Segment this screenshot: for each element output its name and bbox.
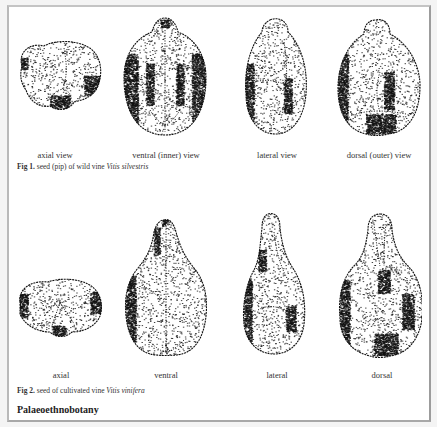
caption-text: seed (pip) of wild vine [37,162,105,171]
seed-drawing [336,14,422,138]
view-label-fig1-ventral: ventral (inner) view [132,150,200,160]
view-label-fig2-lateral: lateral [266,370,287,380]
seed-drawing [124,216,208,358]
seed-drawing [120,14,210,138]
seed-illustration-fig2-lateral [240,210,306,356]
figure-number: Fig 1. [17,162,35,171]
view-label-fig1-lateral: lateral view [257,150,297,160]
seed-illustration-fig1-lateral [240,14,312,138]
seed-outline [246,19,307,134]
stipple-layer [124,216,208,358]
figure-number: Fig 2. [17,386,35,395]
stipple-layer [240,210,306,356]
surface-ridge [250,80,288,86]
seed-illustration-fig2-axial [14,274,104,338]
seed-drawing [14,36,104,114]
species-name: Vitis vinifera [106,386,144,395]
figure-caption-2: Fig 2. seed of cultivated vine Vitis vin… [17,386,145,395]
stipple-layer [120,14,210,138]
seed-drawing [14,274,104,338]
seed-illustration-fig1-ventral [120,14,210,138]
view-label-fig2-axial: axial [53,370,70,380]
surface-ridge [64,48,66,84]
seed-outline [20,279,102,336]
surface-ridge [384,224,386,266]
view-label-fig1-dorsal: dorsal (outer) view [347,150,412,160]
surface-ridge [356,111,406,114]
view-label-fig2-dorsal: dorsal [372,370,393,380]
surface-ridge [166,340,184,352]
view-label-fig1-axial: axial view [37,150,72,160]
figure-caption-1: Fig 1. seed (pip) of wild vine Vitis sil… [17,162,148,171]
stipple-layer [338,210,422,358]
surface-ridge [377,72,380,112]
stipple-layer [14,274,104,338]
surface-ridge [144,286,164,300]
caption-text: seed of cultivated vine [37,386,105,395]
surface-ridge [54,90,70,95]
stipple-layer [336,15,422,138]
seed-illustration-fig1-dorsal [336,14,422,138]
section-title: Palaeoethnobotany [17,404,99,415]
seed-illustration-fig2-ventral [124,216,208,358]
seed-drawing [240,210,306,356]
seed-drawing [338,210,422,358]
stipple-layer [240,14,312,138]
seed-illustration-fig2-dorsal [338,210,422,358]
view-label-fig2-ventral: ventral [154,370,178,380]
seed-illustration-fig1-axial [14,36,104,114]
species-name: Vitis silvestris [107,162,149,171]
seed-drawing [240,14,312,138]
